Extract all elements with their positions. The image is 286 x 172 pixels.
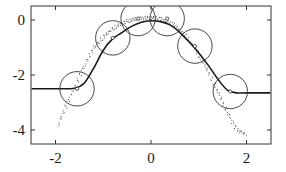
data-point (146, 19, 147, 20)
data-point (147, 16, 148, 17)
data-point (211, 80, 212, 81)
data-point (221, 97, 222, 98)
data-point (106, 32, 107, 33)
y-tick-label: 0 (18, 12, 26, 28)
data-point (219, 92, 220, 93)
data-point (65, 104, 66, 105)
data-point (112, 27, 113, 28)
data-point (85, 65, 86, 66)
data-point (229, 114, 230, 115)
data-point (97, 42, 98, 43)
data-point (66, 100, 67, 101)
data-point (161, 19, 162, 20)
data-point (229, 117, 230, 118)
data-point (230, 118, 231, 119)
data-point (153, 17, 154, 18)
x-tick-label: -2 (49, 150, 62, 166)
data-point (244, 132, 245, 133)
data-point (89, 54, 90, 55)
data-point (67, 108, 68, 109)
circle-center-marker (137, 17, 140, 20)
data-point (128, 19, 129, 20)
data-point (133, 18, 134, 19)
data-point (93, 48, 94, 49)
data-point (212, 77, 213, 78)
circle-center-marker (229, 90, 232, 93)
data-point (142, 17, 143, 18)
data-point (223, 103, 224, 104)
data-point (241, 132, 242, 133)
data-point (100, 40, 101, 41)
x-tick-label: 0 (147, 150, 155, 166)
data-point (157, 19, 158, 20)
data-point (176, 25, 177, 26)
data-point (221, 98, 222, 99)
data-point (223, 105, 224, 106)
data-point (246, 134, 247, 135)
data-point (75, 86, 76, 87)
data-point (72, 91, 73, 92)
data-point (233, 123, 234, 124)
data-point (74, 85, 75, 86)
data-point (227, 114, 228, 115)
data-point (81, 75, 82, 76)
data-point (71, 94, 72, 95)
circle-center-marker (193, 45, 196, 48)
data-point (156, 16, 157, 17)
data-point (184, 35, 185, 36)
data-point (212, 83, 213, 84)
data-point (116, 26, 117, 27)
circle-center-marker (75, 87, 78, 90)
data-point (85, 63, 86, 64)
data-point (114, 25, 115, 26)
data-point (208, 75, 209, 76)
data-point (163, 19, 164, 20)
data-point (78, 81, 79, 82)
data-point (200, 59, 201, 60)
data-point (127, 21, 128, 22)
plot-area (32, 1, 271, 135)
data-point (237, 128, 238, 129)
data-point (235, 125, 236, 126)
data-point (141, 19, 142, 20)
data-point (69, 101, 70, 102)
data-point (106, 34, 107, 35)
data-point (204, 66, 205, 67)
data-point (129, 22, 130, 23)
data-point (196, 53, 197, 54)
data-point (188, 37, 189, 38)
data-point (199, 56, 200, 57)
data-point (58, 122, 59, 123)
data-point (140, 16, 141, 17)
data-point (227, 112, 228, 113)
data-point (152, 18, 153, 19)
data-point (59, 124, 60, 125)
data-point (73, 90, 74, 91)
data-point (62, 113, 63, 114)
data-point (102, 40, 103, 41)
data-point (92, 52, 93, 53)
data-point (87, 61, 88, 62)
data-point (239, 130, 240, 131)
data-point (77, 78, 78, 79)
data-point (219, 95, 220, 96)
data-point (104, 35, 105, 36)
data-point (112, 28, 113, 29)
data-point (69, 96, 70, 97)
data-point (87, 59, 88, 60)
data-point (204, 64, 205, 65)
circle-center-marker (166, 17, 169, 20)
chart: -2020-2-4 (0, 0, 286, 172)
data-point (108, 33, 109, 34)
data-point (234, 128, 235, 129)
data-point (118, 23, 119, 24)
data-point (126, 21, 127, 22)
x-tick-label: 2 (243, 150, 251, 166)
data-point (209, 73, 210, 74)
data-point (83, 66, 84, 67)
data-point (217, 90, 218, 91)
data-point (89, 56, 90, 57)
data-point (65, 106, 66, 107)
data-point (182, 31, 183, 32)
data-point (99, 43, 100, 44)
